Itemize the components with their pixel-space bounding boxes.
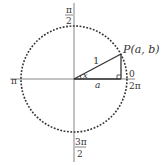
top-label-numerator: π: [66, 5, 72, 15]
right-label-two-pi: 2π: [129, 81, 141, 91]
adjacent-label: a: [95, 80, 100, 90]
bottom-label-numerator: 3π: [75, 137, 87, 147]
radius-label: 1: [93, 55, 99, 66]
angle-label: x: [83, 71, 88, 80]
point-label: P(a, b): [122, 43, 160, 56]
top-label-denominator: 2: [66, 16, 72, 26]
right-label-zero: 0: [129, 69, 135, 79]
unit-circle-diagram: P(a, b) 1 x a π 2 π 0 2π 3π 2: [0, 0, 161, 166]
left-label: π: [11, 76, 17, 86]
bottom-label-denominator: 2: [77, 149, 83, 159]
